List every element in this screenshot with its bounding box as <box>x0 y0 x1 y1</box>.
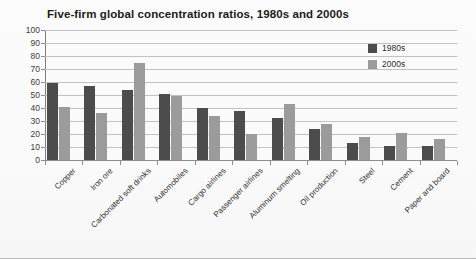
y-axis-tick-label: 70 <box>0 65 40 74</box>
y-axis-labels: 0102030405060708090100 <box>0 30 40 160</box>
y-axis-tick-label: 20 <box>0 130 40 139</box>
legend-swatch <box>368 60 377 69</box>
x-axis-tick <box>270 161 271 165</box>
y-axis-tick-label: 80 <box>0 52 40 61</box>
chart-legend: 1980s2000s <box>368 42 438 74</box>
y-axis-tick <box>41 30 45 31</box>
y-axis-tick <box>41 95 45 96</box>
x-axis-category-label: Cement <box>389 167 414 192</box>
y-axis-tick-label: 40 <box>0 104 40 113</box>
legend-swatch <box>368 44 377 53</box>
y-axis-tick <box>41 108 45 109</box>
y-axis-tick-label: 50 <box>0 91 40 100</box>
bar <box>47 83 58 160</box>
bar <box>96 113 107 160</box>
y-axis-tick-label: 0 <box>0 156 40 165</box>
y-axis-tick-label: 10 <box>0 143 40 152</box>
x-axis-tick <box>195 161 196 165</box>
x-axis-tick <box>232 161 233 165</box>
x-axis-tick <box>382 161 383 165</box>
legend-item: 2000s <box>368 58 438 71</box>
legend-label: 2000s <box>382 60 405 69</box>
bar <box>134 63 145 161</box>
bar <box>246 134 257 160</box>
legend-item: 1980s <box>368 42 438 55</box>
y-axis-tick <box>41 121 45 122</box>
bar <box>59 107 70 160</box>
x-axis-tick <box>457 161 458 165</box>
bar <box>384 146 395 160</box>
legend-label: 1980s <box>382 44 405 53</box>
x-axis-category-label: Automobiles <box>153 167 190 204</box>
bar-group <box>232 30 269 160</box>
x-axis-tick <box>307 161 308 165</box>
bar-group <box>157 30 194 160</box>
y-axis-tick-label: 90 <box>0 39 40 48</box>
y-axis-tick-label: 30 <box>0 117 40 126</box>
bar-group <box>307 30 344 160</box>
bar <box>159 94 170 160</box>
x-axis-tick <box>157 161 158 165</box>
x-axis-tick <box>120 161 121 165</box>
y-axis-tick <box>41 147 45 148</box>
bar <box>171 96 182 160</box>
bar <box>197 108 208 160</box>
x-axis-category-label: Copper <box>53 167 77 191</box>
bar-group <box>195 30 232 160</box>
bar <box>422 146 433 160</box>
y-axis-tick-label: 100 <box>0 26 40 35</box>
y-axis-tick-label: 60 <box>0 78 40 87</box>
bar-group <box>82 30 119 160</box>
bar <box>122 90 133 160</box>
chart-title: Five-firm global concentration ratios, 1… <box>47 8 349 20</box>
bar <box>284 104 295 160</box>
bar <box>84 86 95 160</box>
bar <box>359 137 370 160</box>
x-axis-category-label: Steel <box>358 167 377 186</box>
bar-group <box>45 30 82 160</box>
bar <box>434 139 445 160</box>
x-axis-tick <box>45 161 46 165</box>
bar-group <box>270 30 307 160</box>
y-axis-tick <box>41 56 45 57</box>
bar <box>309 129 320 160</box>
x-axis-category-label: Cargo airlines <box>187 167 228 208</box>
bar <box>321 124 332 160</box>
y-axis-tick <box>41 69 45 70</box>
x-axis-category-label: Oil production <box>299 167 340 208</box>
y-axis-tick <box>41 43 45 44</box>
bar <box>347 143 358 160</box>
x-axis-tick <box>420 161 421 165</box>
bar <box>396 133 407 160</box>
x-axis-tick <box>345 161 346 165</box>
bar <box>234 111 245 160</box>
x-axis-tick <box>82 161 83 165</box>
bar-group <box>120 30 157 160</box>
x-axis-category-label: Iron ore <box>90 167 115 192</box>
bar <box>272 118 283 160</box>
chart-page: Five-firm global concentration ratios, 1… <box>0 0 476 259</box>
y-axis-tick <box>41 82 45 83</box>
x-axis-line <box>45 160 457 161</box>
y-axis-tick <box>41 134 45 135</box>
bar <box>209 116 220 160</box>
